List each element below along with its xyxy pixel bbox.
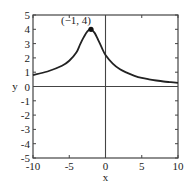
x-tick-label: 5 <box>139 160 145 172</box>
zero-axes <box>33 15 178 158</box>
y-tick-label: 2 <box>25 52 31 64</box>
y-tick-label: 0 <box>25 81 31 93</box>
y-tick-label: 5 <box>25 9 31 21</box>
y-tick-label: 1 <box>25 66 31 78</box>
x-tick-label: -5 <box>65 160 75 172</box>
y-tick-label: -3 <box>21 123 31 135</box>
line-chart: -10-50510-5-4-3-2-1012345 x y (−1, 4) <box>0 0 192 187</box>
tick-labels: -10-50510-5-4-3-2-1012345 <box>21 9 184 172</box>
x-axis-label: x <box>103 171 109 183</box>
y-tick-label: -5 <box>21 152 31 164</box>
y-tick-label: -2 <box>21 109 30 121</box>
peak-marker <box>88 27 93 32</box>
y-tick-label: -4 <box>21 138 31 150</box>
y-tick-label: 3 <box>25 38 31 50</box>
peak-annotation: (−1, 4) <box>61 14 91 27</box>
x-tick-label: 10 <box>173 160 185 172</box>
y-axis-label: y <box>12 80 18 92</box>
y-tick-label: -1 <box>21 95 30 107</box>
y-tick-label: 4 <box>25 23 31 35</box>
